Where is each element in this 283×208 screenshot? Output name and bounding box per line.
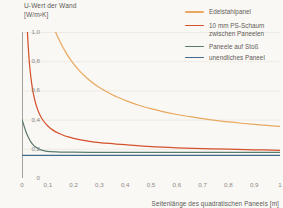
legend-item-label: 10 mm PS-Schaum zwischen Paneelen — [209, 22, 264, 39]
legend-color-swatch — [185, 11, 204, 13]
legend-item: Edelstahlpanel — [185, 8, 251, 16]
series-line-3 — [22, 120, 280, 153]
legend-item: 10 mm PS-Schaum zwischen Paneelen — [185, 22, 264, 39]
y-axis-title: U-Wert der Wand[W/m²K] — [24, 2, 76, 19]
y-axis-title-line2: [W/m²K] — [24, 11, 49, 18]
legend-item: Paneele auf Stoß — [185, 43, 258, 51]
y-axis-title-line1: U-Wert der Wand — [24, 2, 76, 9]
legend-item-label: unendliches Paneel — [209, 54, 265, 62]
chart-container: U-Wert der Wand[W/m²K] 00,20,40,60,81,0 … — [0, 0, 283, 208]
x-axis-title: Seitenlänge des quadratischen Paneels [m… — [0, 200, 279, 207]
legend-color-swatch — [185, 46, 204, 48]
legend-color-swatch — [185, 57, 204, 59]
legend-item: unendliches Paneel — [185, 54, 265, 62]
legend-color-swatch — [185, 25, 204, 27]
legend-item-label: Edelstahlpanel — [209, 8, 251, 16]
legend-item-label: Paneele auf Stoß — [209, 43, 258, 51]
